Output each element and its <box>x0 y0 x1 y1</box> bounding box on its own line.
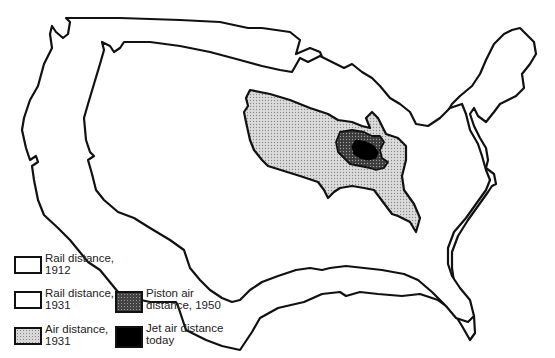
legend-label: Air distance, 1931 <box>45 323 108 347</box>
legend-item-rail-1912: Rail distance, 1912 <box>14 252 114 276</box>
rail-1931-swatch <box>14 291 42 309</box>
rail-1912-swatch <box>14 256 42 274</box>
legend-item-rail-1931: Rail distance, 1931 <box>14 287 114 311</box>
legend-item-piston-1950: Piston air distance, 1950 <box>115 287 221 313</box>
legend-label: Jet air distance today <box>146 322 223 346</box>
legend-label: Piston air distance, 1950 <box>146 287 221 311</box>
legend-item-air-1931: Air distance, 1931 <box>14 323 108 347</box>
legend-label: Rail distance, 1931 <box>45 287 114 311</box>
piston-1950-swatch <box>115 291 143 313</box>
legend-item-jet-today: Jet air distance today <box>115 322 223 348</box>
legend-label: Rail distance, 1912 <box>45 252 114 276</box>
jet-today-swatch <box>115 326 143 348</box>
air-1931-swatch <box>14 327 42 345</box>
